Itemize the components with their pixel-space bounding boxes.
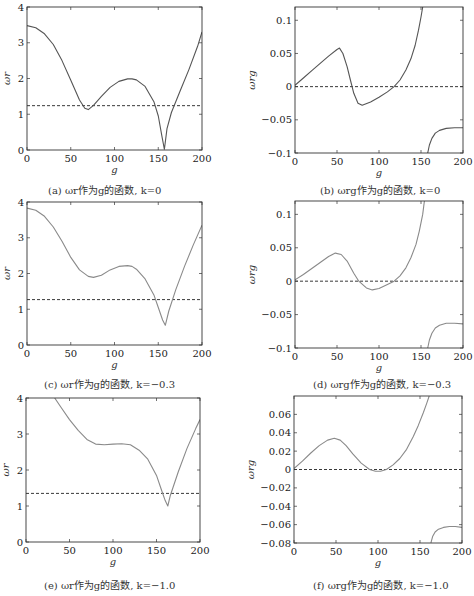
data-curve [431,527,462,544]
x-tick-label: 100 [369,156,388,167]
y-tick-label: −0.06 [260,519,291,530]
x-tick-label: 150 [410,546,429,557]
y-tick-label: −0.02 [260,482,291,493]
y-tick-label: −0.1 [268,148,292,159]
x-tick-label: 200 [452,546,471,557]
y-tick-label: 3 [17,429,23,440]
x-tick-label: 100 [369,351,388,362]
y-tick-label: 0.05 [270,48,292,59]
caption-f: (f) ωrg作为g的函数, k=−1.0 [313,577,449,592]
x-tick-label: 50 [63,545,76,556]
y-axis-label: ωrg [245,460,256,479]
y-tick-label: 2 [18,73,24,84]
data-curve [428,323,463,348]
x-tick-label: 0 [24,153,30,164]
y-tick-label: 4 [17,393,23,404]
data-curve [428,128,463,153]
axes-box [26,398,200,542]
plot-e: 05010015020001234gωr [0,393,210,568]
plot-d: 050100150200−0.1−0.0500.050.1gωrg [246,201,473,373]
caption-c: (c) ωr作为g的函数, k=−0.3 [44,376,175,391]
y-tick-label: 4 [18,197,24,208]
y-tick-label: 0 [18,145,24,156]
y-axis-label: ωrg [246,70,257,89]
x-tick-label: 0 [23,545,29,556]
y-tick-label: −0.08 [260,538,291,549]
y-tick-label: 0.06 [269,409,291,420]
x-axis-label: g [376,167,382,178]
x-tick-label: 100 [103,545,122,556]
caption-e: (e) ωr作为g的函数, k=−1.0 [44,577,175,592]
y-tick-label: 0 [18,340,24,351]
y-tick-label: −0.04 [260,501,291,512]
x-tick-label: 0 [292,156,298,167]
axes-box [27,202,202,345]
y-tick-label: 0 [286,81,292,92]
data-curve [294,396,429,471]
data-curve [27,208,202,325]
y-axis-label: ωrg [246,265,257,284]
x-axis-label: g [111,359,117,370]
caption-b: (b) ωrg作为g的函数, k=0 [320,182,440,197]
x-axis-label: g [376,362,382,373]
data-curve [295,7,423,105]
x-tick-label: 0 [292,351,298,362]
x-tick-label: 150 [411,156,430,167]
y-tick-label: 0 [17,537,23,548]
data-curve [295,201,424,290]
y-tick-label: 0 [285,464,291,475]
y-tick-label: 0.05 [270,242,292,253]
x-tick-label: 50 [64,348,77,359]
y-tick-label: 1 [17,501,23,512]
x-tick-label: 50 [330,546,343,557]
x-tick-label: 200 [453,351,472,362]
x-tick-label: 150 [147,545,166,556]
x-tick-label: 200 [192,348,211,359]
x-tick-label: 200 [190,545,209,556]
y-tick-label: −0.05 [261,309,292,320]
data-curve [55,398,200,506]
y-tick-label: 0.1 [276,15,292,26]
plot-c: 05010015020001234gωr [1,197,212,371]
plot-b: 050100150200−0.1−0.0500.050.1gωrg [246,7,473,178]
y-tick-label: 0 [286,276,292,287]
caption-d: (d) ωrg作为g的函数, k=−0.3 [313,376,451,391]
x-tick-label: 0 [24,348,30,359]
y-axis-label: ωr [1,71,12,85]
data-curve [27,26,202,150]
plot-f: 050100150200−0.08−0.06−0.04−0.0200.020.0… [245,396,472,568]
x-tick-label: 150 [149,153,168,164]
y-tick-label: 2 [18,268,24,279]
y-tick-label: −0.1 [268,343,292,354]
x-tick-label: 50 [331,351,344,362]
x-tick-label: 0 [291,546,297,557]
y-tick-label: 2 [17,465,23,476]
x-axis-label: g [111,164,117,175]
y-tick-label: 0.1 [276,209,292,220]
y-tick-label: 4 [18,2,24,13]
y-axis-label: ωr [0,462,11,476]
x-tick-label: 50 [331,156,344,167]
x-tick-label: 150 [149,348,168,359]
x-tick-label: 200 [453,156,472,167]
x-tick-label: 200 [192,153,211,164]
x-axis-label: g [375,557,381,568]
x-tick-label: 150 [411,351,430,362]
y-tick-label: 3 [18,232,24,243]
caption-a: (a) ωr作为g的函数, k=0 [48,182,161,197]
y-axis-label: ωr [1,266,12,280]
y-tick-label: 1 [18,109,24,120]
x-tick-label: 100 [368,546,387,557]
x-tick-label: 100 [105,348,124,359]
y-tick-label: 1 [18,304,24,315]
y-tick-label: 3 [18,37,24,48]
x-tick-label: 50 [64,153,77,164]
y-tick-label: −0.05 [261,114,292,125]
y-tick-label: 0.02 [269,446,291,457]
axes-box [27,7,202,150]
plot-a: 05010015020001234gωr [1,2,212,176]
plots-canvas: 05010015020001234gωr050100150200−0.1−0.0… [0,0,474,596]
y-tick-label: 0.04 [269,427,291,438]
x-tick-label: 100 [105,153,124,164]
x-axis-label: g [110,556,116,567]
